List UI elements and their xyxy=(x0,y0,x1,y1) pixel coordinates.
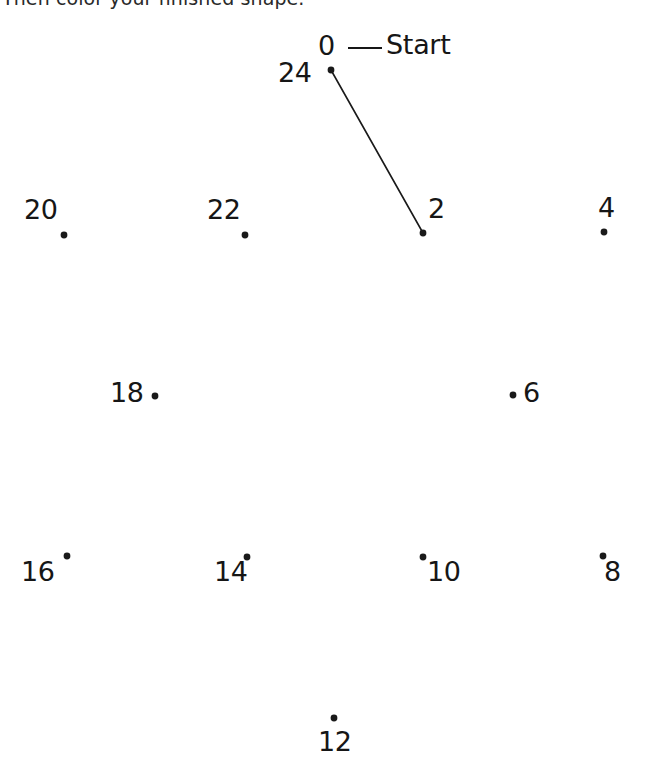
dot-label-10: 10 xyxy=(427,558,460,585)
dot-point-2[interactable] xyxy=(420,230,427,237)
connect-the-dots-worksheet: Then color your finished shape. 02424681… xyxy=(0,0,648,774)
dot-canvas xyxy=(0,0,648,774)
dot-label-8: 8 xyxy=(604,558,621,585)
dot-label-12: 12 xyxy=(318,728,351,755)
dot-label-24: 24 xyxy=(278,59,311,86)
dot-point-18[interactable] xyxy=(152,393,159,400)
dot-label-14: 14 xyxy=(214,558,247,585)
drawn-segment-0-to-2 xyxy=(331,70,423,233)
dot-point-10[interactable] xyxy=(420,554,427,561)
dot-point-22[interactable] xyxy=(242,232,249,239)
dot-point-20[interactable] xyxy=(61,232,68,239)
dot-label-0: 0 xyxy=(318,32,335,59)
dot-point-12[interactable] xyxy=(331,715,338,722)
dot-label-16: 16 xyxy=(21,558,54,585)
drawn-line-group xyxy=(331,70,423,233)
dot-label-18: 18 xyxy=(110,379,143,406)
dot-label-20: 20 xyxy=(24,196,57,223)
dot-label-4: 4 xyxy=(598,194,615,221)
dot-label-2: 2 xyxy=(428,195,445,222)
dot-point-0[interactable] xyxy=(328,67,335,74)
dot-point-4[interactable] xyxy=(601,229,608,236)
dot-point-16[interactable] xyxy=(64,553,71,560)
start-label: Start xyxy=(386,31,450,58)
dot-label-22: 22 xyxy=(207,196,240,223)
dot-label-6: 6 xyxy=(523,379,540,406)
dot-point-6[interactable] xyxy=(510,392,517,399)
